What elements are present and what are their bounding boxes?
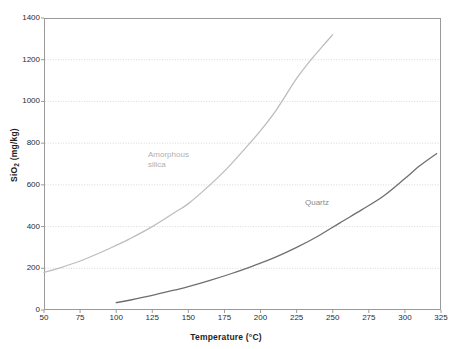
y-axis-tick-label: 600 bbox=[0, 181, 40, 189]
x-axis-tick-label: 175 bbox=[218, 313, 231, 322]
y-axis-tick-label: 800 bbox=[0, 139, 40, 147]
x-axis-tick-label: 150 bbox=[182, 313, 195, 322]
x-axis-tick-label: 50 bbox=[40, 313, 49, 322]
series-label-amorphous-silica: Amorphous silica bbox=[148, 150, 189, 170]
y-axis-title-subscript: 2 bbox=[13, 163, 20, 167]
y-axis-tick-label: 200 bbox=[0, 264, 40, 272]
x-axis-tick-label: 325 bbox=[434, 313, 447, 322]
y-axis-tick-label: 400 bbox=[0, 223, 40, 231]
y-axis-tick-label: 1400 bbox=[0, 14, 40, 22]
x-axis-tick-label: 300 bbox=[398, 313, 411, 322]
x-axis-tick-label: 250 bbox=[326, 313, 339, 322]
x-axis-tick-labels: 5075100125150175200225250275300325 bbox=[0, 313, 452, 327]
y-axis-title-base: SiO bbox=[9, 167, 19, 182]
y-axis-title: SiO2 (mg/kg) bbox=[9, 95, 19, 215]
x-axis-tick-label: 100 bbox=[109, 313, 122, 322]
x-axis-tick-label: 200 bbox=[254, 313, 267, 322]
plot-area-frame bbox=[44, 18, 441, 310]
x-axis-tick-label: 75 bbox=[76, 313, 85, 322]
x-axis-tick-label: 125 bbox=[146, 313, 159, 322]
y-axis-title-units: (mg/kg) bbox=[9, 128, 19, 163]
x-axis-tick-label: 275 bbox=[362, 313, 375, 322]
chart-container: 0200400600800100012001400 50751001251501… bbox=[0, 0, 452, 349]
y-axis-tick-labels: 0200400600800100012001400 bbox=[0, 0, 40, 349]
y-axis-tick-label: 1000 bbox=[0, 97, 40, 105]
y-axis-tick-label: 1200 bbox=[0, 56, 40, 64]
x-axis-tick-label: 225 bbox=[290, 313, 303, 322]
series-label-quartz: Quartz bbox=[305, 198, 329, 208]
x-axis-title: Temperature (°C) bbox=[0, 332, 452, 342]
